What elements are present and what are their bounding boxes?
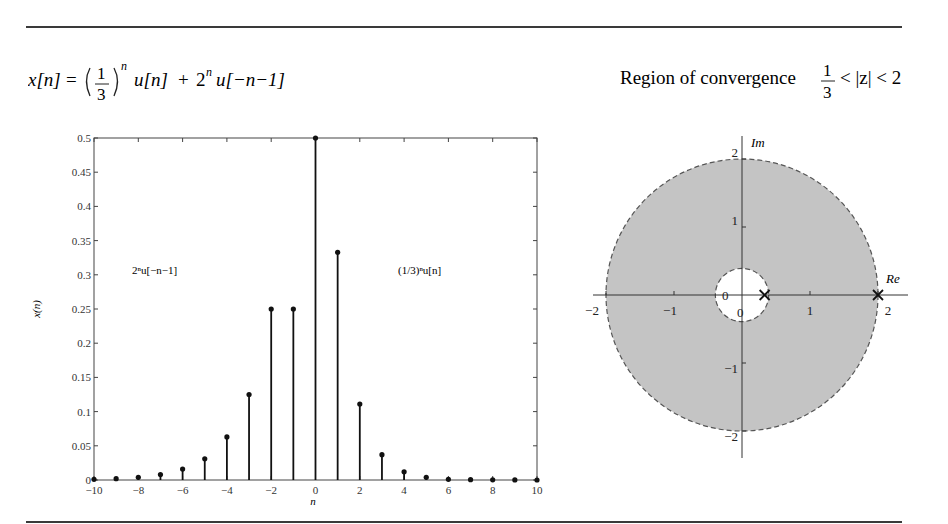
re-tick-label: 2 xyxy=(885,303,892,318)
im-tick-label: −2 xyxy=(724,429,738,444)
im-tick-label: 2 xyxy=(732,145,739,160)
zero-label-left: 0 xyxy=(722,288,729,303)
pz-xlabel: Re xyxy=(885,271,900,286)
re-tick-label: −2 xyxy=(585,303,599,318)
re-tick-label: −1 xyxy=(663,303,677,318)
im-tick-label: 1 xyxy=(732,213,739,228)
pole-zero-plot: −2−11221−1−200 Im Re xyxy=(0,0,948,524)
pz-ylabel: Im xyxy=(750,135,765,150)
im-tick-label: −1 xyxy=(724,361,738,376)
re-tick-label: 1 xyxy=(807,303,814,318)
zero-label-bottom: 0 xyxy=(737,305,744,320)
pole-zero-body: −2−11221−1−200 xyxy=(585,136,908,458)
